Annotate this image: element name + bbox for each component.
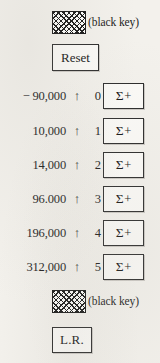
crosshatch-key-icon-bottom[interactable]: [52, 290, 86, 313]
entry-row-5: 312,000 ↑ 5 Σ+: [0, 254, 160, 280]
sigma-plus-button-1[interactable]: Σ+: [103, 118, 144, 144]
sigma-glyph-0: Σ: [116, 88, 124, 103]
entry-row-3: 96.000 ↑ 3 Σ+: [0, 186, 160, 212]
lr-button[interactable]: L.R.: [52, 327, 92, 353]
entry-index-3: 3: [88, 186, 101, 212]
sigma-glyph-3: Σ: [116, 191, 124, 206]
entry-index-4: 4: [88, 220, 101, 246]
entry-index-5: 5: [88, 254, 101, 280]
reset-button[interactable]: Reset: [52, 44, 99, 71]
plus-glyph-1: +: [124, 124, 131, 138]
up-arrow-icon-1: ↑: [70, 118, 84, 144]
keystroke-diagram: (black key) Reset − 90,000 ↑ 0 Σ+ 10,000…: [0, 0, 160, 363]
plus-glyph-2: +: [124, 158, 131, 172]
sigma-glyph-1: Σ: [116, 123, 124, 138]
up-arrow-icon-3: ↑: [70, 186, 84, 212]
crosshatch-key-icon-top[interactable]: [52, 11, 86, 34]
sigma-glyph-2: Σ: [116, 157, 124, 172]
entry-value-3: 96.000: [0, 186, 66, 212]
entry-index-2: 2: [88, 152, 101, 178]
plus-glyph-5: +: [124, 260, 131, 274]
sigma-plus-button-2[interactable]: Σ+: [103, 152, 144, 178]
up-arrow-icon-4: ↑: [70, 220, 84, 246]
entry-index-1: 1: [88, 118, 101, 144]
sigma-glyph-4: Σ: [116, 225, 124, 240]
entry-value-0: − 90,000: [0, 83, 66, 109]
sigma-plus-button-3[interactable]: Σ+: [103, 186, 144, 212]
entry-index-0: 0: [88, 83, 101, 109]
sigma-plus-button-0[interactable]: Σ+: [103, 83, 144, 109]
plus-glyph-3: +: [124, 192, 131, 206]
plus-glyph-0: +: [124, 89, 131, 103]
entry-value-2: 14,000: [0, 152, 66, 178]
entry-value-1: 10,000: [0, 118, 66, 144]
up-arrow-icon-2: ↑: [70, 152, 84, 178]
black-key-label-top: (black key): [88, 11, 139, 34]
entry-row-2: 14,000 ↑ 2 Σ+: [0, 152, 160, 178]
sigma-plus-button-4[interactable]: Σ+: [103, 220, 144, 246]
entry-value-4: 196,000: [0, 220, 66, 246]
sigma-glyph-5: Σ: [116, 259, 124, 274]
up-arrow-icon-5: ↑: [70, 254, 84, 280]
black-key-label-bottom: (black key): [88, 290, 139, 313]
entry-row-0: − 90,000 ↑ 0 Σ+: [0, 83, 160, 109]
entry-row-4: 196,000 ↑ 4 Σ+: [0, 220, 160, 246]
entry-value-5: 312,000: [0, 254, 66, 280]
plus-glyph-4: +: [124, 226, 131, 240]
up-arrow-icon-0: ↑: [70, 83, 84, 109]
sigma-plus-button-5[interactable]: Σ+: [103, 254, 144, 280]
entry-row-1: 10,000 ↑ 1 Σ+: [0, 118, 160, 144]
